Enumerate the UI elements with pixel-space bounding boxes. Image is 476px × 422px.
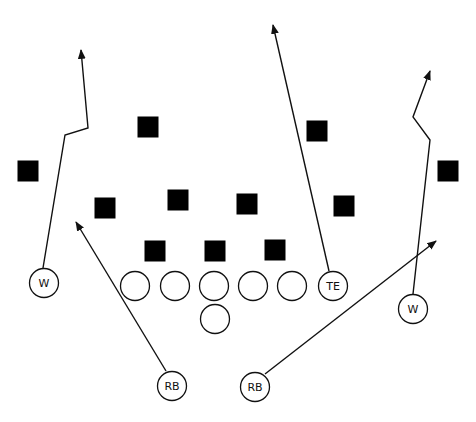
defender-square — [145, 241, 166, 262]
player-label: W — [408, 303, 419, 316]
defender-square — [95, 198, 116, 219]
tight-end: TE — [319, 272, 348, 301]
lineman-5 — [278, 272, 307, 301]
defender-square — [168, 190, 189, 211]
player-label: W — [39, 277, 50, 290]
defender-square — [438, 161, 459, 182]
left-w-route-arrow — [43, 50, 88, 268]
lineman-4 — [239, 272, 268, 301]
lineman-2 — [161, 272, 190, 301]
defender-square — [138, 117, 159, 138]
right-running-back: RB — [241, 373, 270, 402]
player-label: RB — [247, 381, 262, 394]
offense-layer: WTEWRBRB — [30, 269, 428, 402]
offensive-player-circle — [200, 272, 229, 301]
left-running-back: RB — [158, 372, 187, 401]
offensive-player-circle — [278, 272, 307, 301]
defender-square — [307, 121, 328, 142]
offensive-player-circle — [201, 305, 230, 334]
right-wide-receiver: W — [399, 295, 428, 324]
defender-square — [205, 241, 226, 262]
quarterback — [201, 305, 230, 334]
player-label: TE — [325, 280, 340, 293]
center — [200, 272, 229, 301]
play-diagram: WTEWRBRB — [0, 0, 476, 422]
defender-square — [237, 194, 258, 215]
defender-square — [18, 161, 39, 182]
offensive-player-circle — [121, 272, 150, 301]
offensive-player-circle — [161, 272, 190, 301]
defender-square — [265, 240, 286, 261]
te-route-arrow — [273, 25, 329, 271]
player-label: RB — [164, 380, 179, 393]
defender-square — [334, 196, 355, 217]
right-w-route-arrow — [413, 71, 430, 294]
offensive-player-circle — [239, 272, 268, 301]
defenders-layer — [18, 117, 459, 262]
left-wide-receiver: W — [30, 269, 59, 298]
lineman-1 — [121, 272, 150, 301]
